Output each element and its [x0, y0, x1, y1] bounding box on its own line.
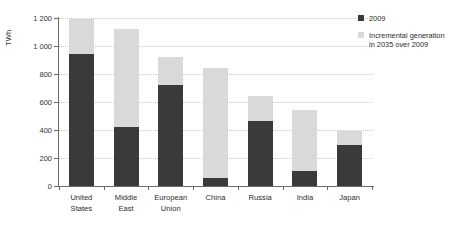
- x-axis-label: India: [283, 193, 328, 204]
- y-tick-label: 400: [18, 126, 52, 135]
- x-axis-label: Japan: [327, 193, 372, 204]
- y-tick-label: 600: [18, 98, 52, 107]
- bar-segment-2009[interactable]: [69, 54, 94, 186]
- legend-swatch-incremental: [358, 32, 364, 38]
- bar-segment-incremental[interactable]: [203, 68, 228, 178]
- bar-segment-incremental[interactable]: [337, 131, 362, 145]
- x-tick-mark: [238, 186, 239, 190]
- x-axis-label: China: [193, 193, 238, 204]
- legend-item-2009[interactable]: 2009: [358, 14, 470, 24]
- y-tick-label: 0: [18, 182, 52, 191]
- y-tick-label: 1 000: [18, 42, 52, 51]
- legend-label-2009: 2009: [369, 14, 470, 24]
- y-tick-label: 1 200: [18, 14, 52, 23]
- bar-segment-incremental[interactable]: [158, 57, 183, 85]
- legend-swatch-2009: [358, 15, 364, 21]
- x-axis-label: Middle East: [104, 193, 149, 214]
- bar-segment-incremental[interactable]: [114, 29, 139, 127]
- bar-group[interactable]: [114, 18, 139, 186]
- x-axis-label: European Union: [148, 193, 193, 214]
- x-axis-label: United States: [59, 193, 104, 214]
- bar-group[interactable]: [69, 18, 94, 186]
- x-axis-label: Russia: [238, 193, 283, 204]
- bar-segment-2009[interactable]: [292, 171, 317, 186]
- plot-area: [59, 18, 372, 186]
- bar-segment-2009[interactable]: [248, 121, 273, 186]
- x-tick-mark: [104, 186, 105, 190]
- legend-item-incremental[interactable]: Incremental generation in 2035 over 2009: [358, 31, 470, 50]
- legend-label-incremental: Incremental generation in 2035 over 2009: [369, 31, 470, 50]
- bar-segment-2009[interactable]: [337, 145, 362, 186]
- x-tick-mark: [327, 186, 328, 190]
- bar-segment-incremental[interactable]: [69, 19, 94, 53]
- bar-group[interactable]: [203, 18, 228, 186]
- bar-group[interactable]: [158, 18, 183, 186]
- bar-chart: TWh 02004006008001 0001 200 United State…: [0, 0, 471, 230]
- y-axis-title: TWh: [4, 6, 13, 46]
- bar-segment-incremental[interactable]: [292, 110, 317, 170]
- chart-legend: 2009 Incremental generation in 2035 over…: [358, 14, 470, 57]
- bar-segment-incremental[interactable]: [248, 96, 273, 121]
- bar-segment-2009[interactable]: [114, 127, 139, 187]
- x-tick-mark: [372, 186, 373, 190]
- bar-segment-2009[interactable]: [203, 178, 228, 186]
- x-tick-mark: [59, 186, 60, 190]
- y-tick-label: 200: [18, 154, 52, 163]
- x-tick-mark: [283, 186, 284, 190]
- bar-group[interactable]: [292, 18, 317, 186]
- bar-segment-2009[interactable]: [158, 85, 183, 186]
- x-tick-mark: [193, 186, 194, 190]
- x-tick-mark: [148, 186, 149, 190]
- y-tick-label: 800: [18, 70, 52, 79]
- bar-group[interactable]: [248, 18, 273, 186]
